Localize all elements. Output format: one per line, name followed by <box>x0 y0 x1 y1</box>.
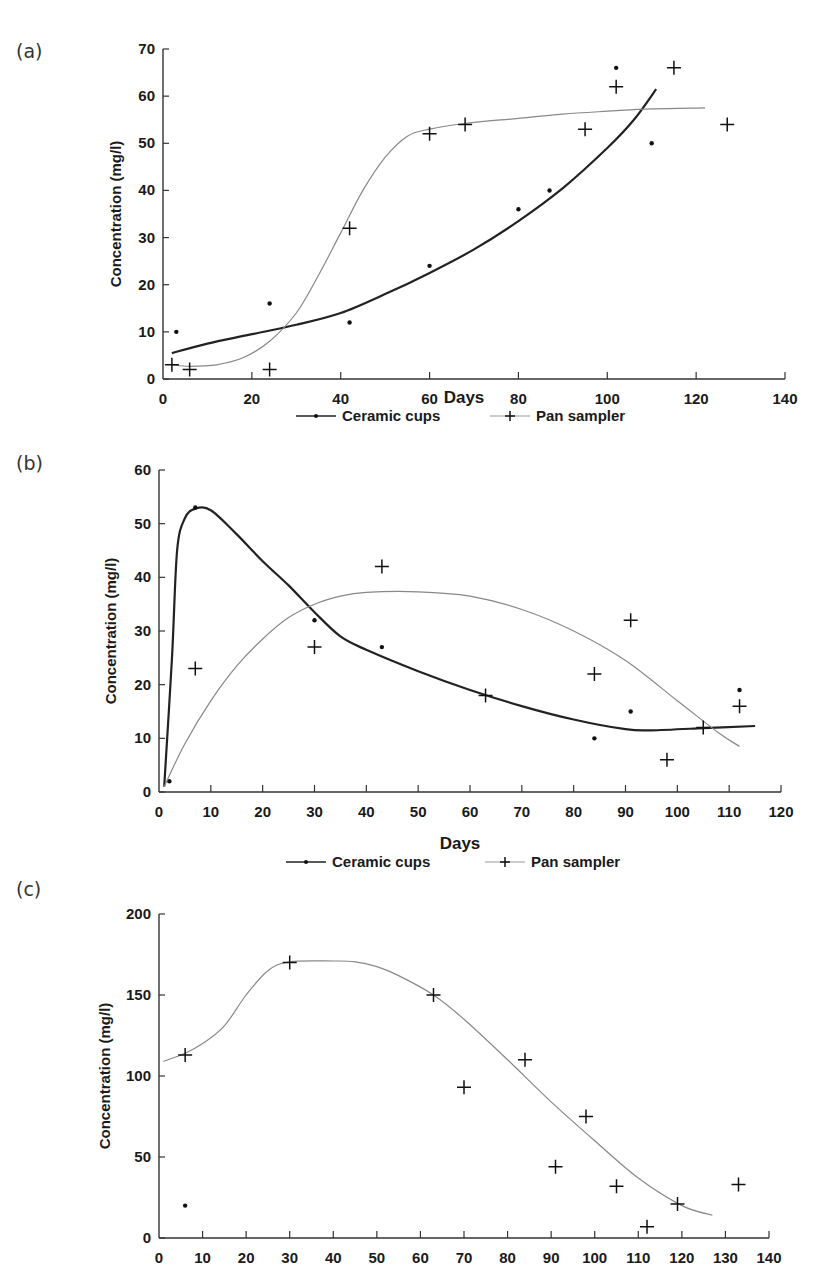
pan-sampler-data-point <box>343 221 357 235</box>
x-tick-label: 120 <box>684 390 709 407</box>
pan-sampler-data-point <box>578 122 592 136</box>
y-tick-label: 0 <box>147 370 155 387</box>
x-tick-label: 70 <box>513 803 530 820</box>
x-tick-label: 120 <box>669 1249 694 1266</box>
pan-sampler-data-point <box>609 80 623 94</box>
pan-sampler-data-point <box>518 1053 532 1067</box>
plot-area <box>164 505 755 786</box>
pan-sampler-data-point <box>640 1220 654 1234</box>
x-tick-label: 30 <box>306 803 323 820</box>
x-tick-label: 0 <box>159 390 167 407</box>
ceramic-cups-data-point <box>347 320 351 324</box>
ceramic-cups-data-point <box>174 330 178 334</box>
pan-sampler-data-point <box>624 613 638 627</box>
pan-sampler-data-point <box>283 956 297 970</box>
pan-sampler-data-point <box>696 721 710 735</box>
legend: Ceramic cups Pan sampler <box>286 853 620 870</box>
chart-panel-a: (a) 010203040506070020406080100120140 Co… <box>16 40 798 424</box>
pan-sampler-data-point <box>660 753 674 767</box>
x-tick-label: 50 <box>369 1249 386 1266</box>
legend-label-pan-sampler: Pan sampler <box>536 407 625 424</box>
pan-sampler-data-point <box>720 117 734 131</box>
y-tick-label: 150 <box>126 986 151 1003</box>
x-tick-label: 120 <box>768 803 793 820</box>
x-tick-label: 80 <box>499 1249 516 1266</box>
legend-item-ceramic-cups: Ceramic cups <box>296 407 440 424</box>
legend-dot-marker-icon <box>304 860 308 864</box>
x-tick-label: 50 <box>410 803 427 820</box>
legend-label-ceramic-cups: Ceramic cups <box>332 853 430 870</box>
pan-sampler-data-point <box>667 61 681 75</box>
pan-sampler-data-point <box>427 988 441 1002</box>
x-tick-label: 140 <box>756 1249 781 1266</box>
y-tick-label: 40 <box>138 181 155 198</box>
panel-label: (b) <box>16 452 43 474</box>
pan-sampler-data-point <box>610 1179 624 1193</box>
chart-panel-c: (c) 050100150200010203040506070809010011… <box>16 878 782 1266</box>
x-tick-label: 100 <box>595 390 620 407</box>
x-tick-label: 60 <box>462 803 479 820</box>
y-tick-label: 60 <box>134 461 151 478</box>
ceramic-cups-data-point <box>650 141 654 145</box>
pan-sampler-data-point <box>671 1197 685 1211</box>
ceramic-cups-data-point <box>312 618 316 622</box>
y-tick-label: 40 <box>134 568 151 585</box>
pan-sampler-data-point <box>579 1110 593 1124</box>
y-axis-title: Concentration (mg/l) <box>102 558 119 705</box>
ceramic-cups-data-point <box>380 645 384 649</box>
legend-label-ceramic-cups: Ceramic cups <box>342 407 440 424</box>
pan-sampler-data-point <box>308 640 322 654</box>
ceramic-cups-data-point <box>193 505 197 509</box>
x-tick-label: 70 <box>456 1249 473 1266</box>
x-tick-label: 80 <box>510 390 527 407</box>
legend: Ceramic cups Pan sampler <box>296 407 625 424</box>
pan-sampler-fit-curve <box>163 961 712 1216</box>
x-tick-label: 130 <box>713 1249 738 1266</box>
x-tick-label: 100 <box>665 803 690 820</box>
x-tick-label: 100 <box>582 1249 607 1266</box>
axes: 0501001502000102030405060708090100110120… <box>126 905 782 1266</box>
x-tick-label: 20 <box>254 803 271 820</box>
axes: 010203040506070020406080100120140 <box>138 40 797 407</box>
ceramic-cups-data-point <box>427 264 431 268</box>
pan-sampler-data-point <box>733 699 747 713</box>
x-tick-label: 20 <box>244 390 261 407</box>
pan-sampler-data-point <box>263 363 277 377</box>
legend-item-pan-sampler: Pan sampler <box>490 407 625 424</box>
pan-sampler-data-point <box>178 1048 192 1062</box>
x-tick-label: 110 <box>717 803 741 820</box>
figure: (a) 010203040506070020406080100120140 Co… <box>0 0 834 1271</box>
x-axis-title: Days <box>444 388 485 407</box>
x-tick-label: 0 <box>155 803 163 820</box>
legend-plus-marker-icon <box>505 411 515 421</box>
plot-area <box>165 61 734 377</box>
y-tick-label: 10 <box>138 323 155 340</box>
y-tick-label: 20 <box>138 276 155 293</box>
ceramic-cups-data-point <box>547 188 551 192</box>
chart-panel-b: (b) 010203040506001020304050607080901001… <box>16 452 794 870</box>
x-tick-label: 90 <box>617 803 634 820</box>
ceramic-cups-data-point <box>516 207 520 211</box>
x-tick-label: 80 <box>565 803 582 820</box>
y-tick-label: 200 <box>126 905 151 922</box>
pan-sampler-data-point <box>732 1178 746 1192</box>
pan-sampler-data-point <box>479 688 493 702</box>
x-tick-label: 10 <box>202 803 219 820</box>
y-tick-label: 30 <box>134 622 151 639</box>
plot-area <box>163 956 745 1234</box>
y-tick-label: 60 <box>138 87 155 104</box>
legend-label-pan-sampler: Pan sampler <box>531 853 620 870</box>
y-tick-label: 50 <box>138 134 155 151</box>
pan-sampler-data-point <box>183 363 197 377</box>
ceramic-cups-data-point <box>183 1203 187 1207</box>
pan-sampler-data-point <box>457 1080 471 1094</box>
axes: 0102030405060010203040506070809010011012… <box>134 461 793 820</box>
y-tick-label: 70 <box>138 40 155 57</box>
x-tick-label: 60 <box>421 390 438 407</box>
x-tick-label: 0 <box>155 1249 163 1266</box>
ceramic-cups-data-point <box>628 709 632 713</box>
legend-item-pan-sampler: Pan sampler <box>485 853 620 870</box>
pan-sampler-data-point <box>458 117 472 131</box>
pan-sampler-fit-curve <box>172 108 705 366</box>
x-tick-label: 90 <box>543 1249 560 1266</box>
